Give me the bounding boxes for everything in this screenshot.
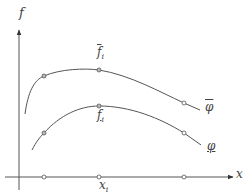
lower-bound-curve	[32, 106, 201, 150]
upper-curve-point	[42, 74, 46, 78]
bounds-diagram	[0, 0, 246, 194]
lower-point-label: fi	[97, 109, 104, 124]
lower-curve-label: φ	[207, 140, 215, 152]
x-point-label: xi	[99, 179, 108, 194]
x-axis-point	[42, 175, 46, 179]
upper-curve-label: φ	[205, 101, 213, 113]
lower-curve-point	[182, 131, 186, 135]
x-axis-point	[182, 175, 186, 179]
upper-curve-point	[97, 68, 101, 72]
lower-curve-point	[42, 131, 46, 135]
upper-curve-point	[182, 101, 186, 105]
y-axis-label: f	[19, 6, 24, 19]
upper-point-label: fi	[97, 46, 104, 61]
x-axis-label: x	[236, 168, 243, 180]
upper-bound-curve	[25, 69, 200, 114]
